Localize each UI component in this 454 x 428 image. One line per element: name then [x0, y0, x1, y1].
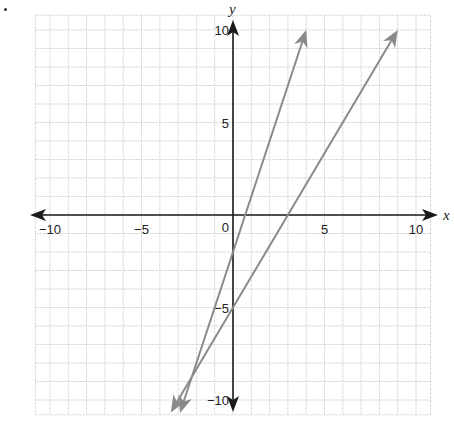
- line-2: [176, 39, 393, 404]
- x-tick-label: 10: [409, 222, 423, 237]
- y-tick-label: 5: [222, 116, 229, 131]
- line-2-up-arrow-icon: [383, 30, 398, 48]
- x-tick-label: 5: [321, 222, 328, 237]
- origin-label: 0: [222, 220, 229, 235]
- x-tick-label: −5: [134, 222, 149, 237]
- axes: xy: [30, 1, 450, 412]
- x-tick-label: −10: [39, 222, 61, 237]
- coordinate-plane-chart: xy −10−5510105−5−100: [0, 0, 454, 428]
- y-tick-label: −10: [207, 393, 229, 408]
- y-axis-label: y: [227, 1, 236, 17]
- x-axis-label: x: [442, 207, 450, 223]
- y-tick-label: 10: [215, 23, 229, 38]
- plotted-lines: [171, 30, 398, 413]
